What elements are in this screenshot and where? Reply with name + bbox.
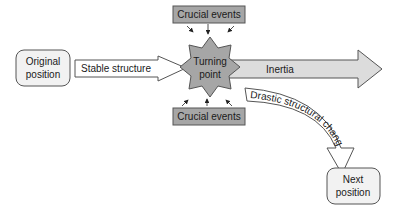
arrow-inertia: Inertia (228, 50, 382, 88)
diagram-canvas: Original position Stable structure Inert… (0, 0, 399, 212)
node-turning-point: Turning point (180, 37, 240, 97)
next-line1: Next (343, 174, 364, 185)
arrow-drastic-change: Drastic structural change (0, 0, 354, 174)
event-arrow-icon (228, 26, 234, 32)
crucial-events-top-label: Crucial events (177, 9, 240, 20)
arrow-stable-structure: Stable structure (75, 56, 186, 81)
stable-structure-label: Stable structure (81, 63, 151, 74)
original-line1: Original (26, 56, 60, 67)
inertia-label: Inertia (266, 64, 294, 75)
event-arrow-icon (187, 26, 193, 32)
turning-line2: point (199, 69, 221, 80)
node-original-position: Original position (16, 50, 70, 86)
crucial-events-bottom-label: Crucial events (177, 111, 240, 122)
node-crucial-events-top: Crucial events (173, 6, 245, 34)
next-line2: position (336, 187, 370, 198)
turning-line1: Turning (193, 56, 227, 67)
original-line2: position (26, 69, 60, 80)
node-next-position: Next position (327, 168, 380, 204)
event-arrow-icon (226, 100, 232, 106)
event-arrow-icon (182, 100, 188, 106)
node-crucial-events-bottom: Crucial events (173, 99, 245, 125)
